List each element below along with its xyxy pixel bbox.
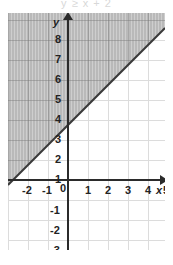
x-tick-neg1: -1 [42,185,52,196]
y-tick-4: 4 [55,114,61,125]
y-tick-neg1: -1 [50,205,60,216]
x-tick-neg2: -2 [22,185,32,196]
x-tick-1: 1 [85,185,91,196]
x-axis [8,179,165,181]
graph-canvas: y ≥ x + 2 y x 8 7 6 5 4 3 2 1 -1 -2 -3 -… [0,0,173,265]
x-tick-0: 0 [60,183,66,194]
y-axis [67,19,69,250]
x-tick-2: 2 [105,185,111,196]
y-tick-8: 8 [55,34,61,45]
x-tick-3: 3 [125,185,131,196]
y-tick-3: 3 [55,134,61,145]
y-tick-7: 7 [55,54,61,65]
y-tick-2: 2 [55,154,61,165]
y-axis-label: y [53,17,59,28]
x-tick-4: 4 [145,185,151,196]
boundary-line [8,13,165,250]
y-tick-5: 5 [55,94,61,105]
y-tick-neg2: -2 [50,225,60,236]
y-tick-neg3: -3 [50,245,60,250]
y-axis-arrow-icon [63,13,73,20]
x-axis-label: x [156,185,162,196]
y-tick-6: 6 [55,74,61,85]
inequality-caption: y ≥ x + 2 [0,0,173,9]
coordinate-plane: y x 8 7 6 5 4 3 2 1 -1 -2 -3 -2 -1 0 1 2… [8,13,165,250]
x-tick-5: 5 [163,185,165,196]
